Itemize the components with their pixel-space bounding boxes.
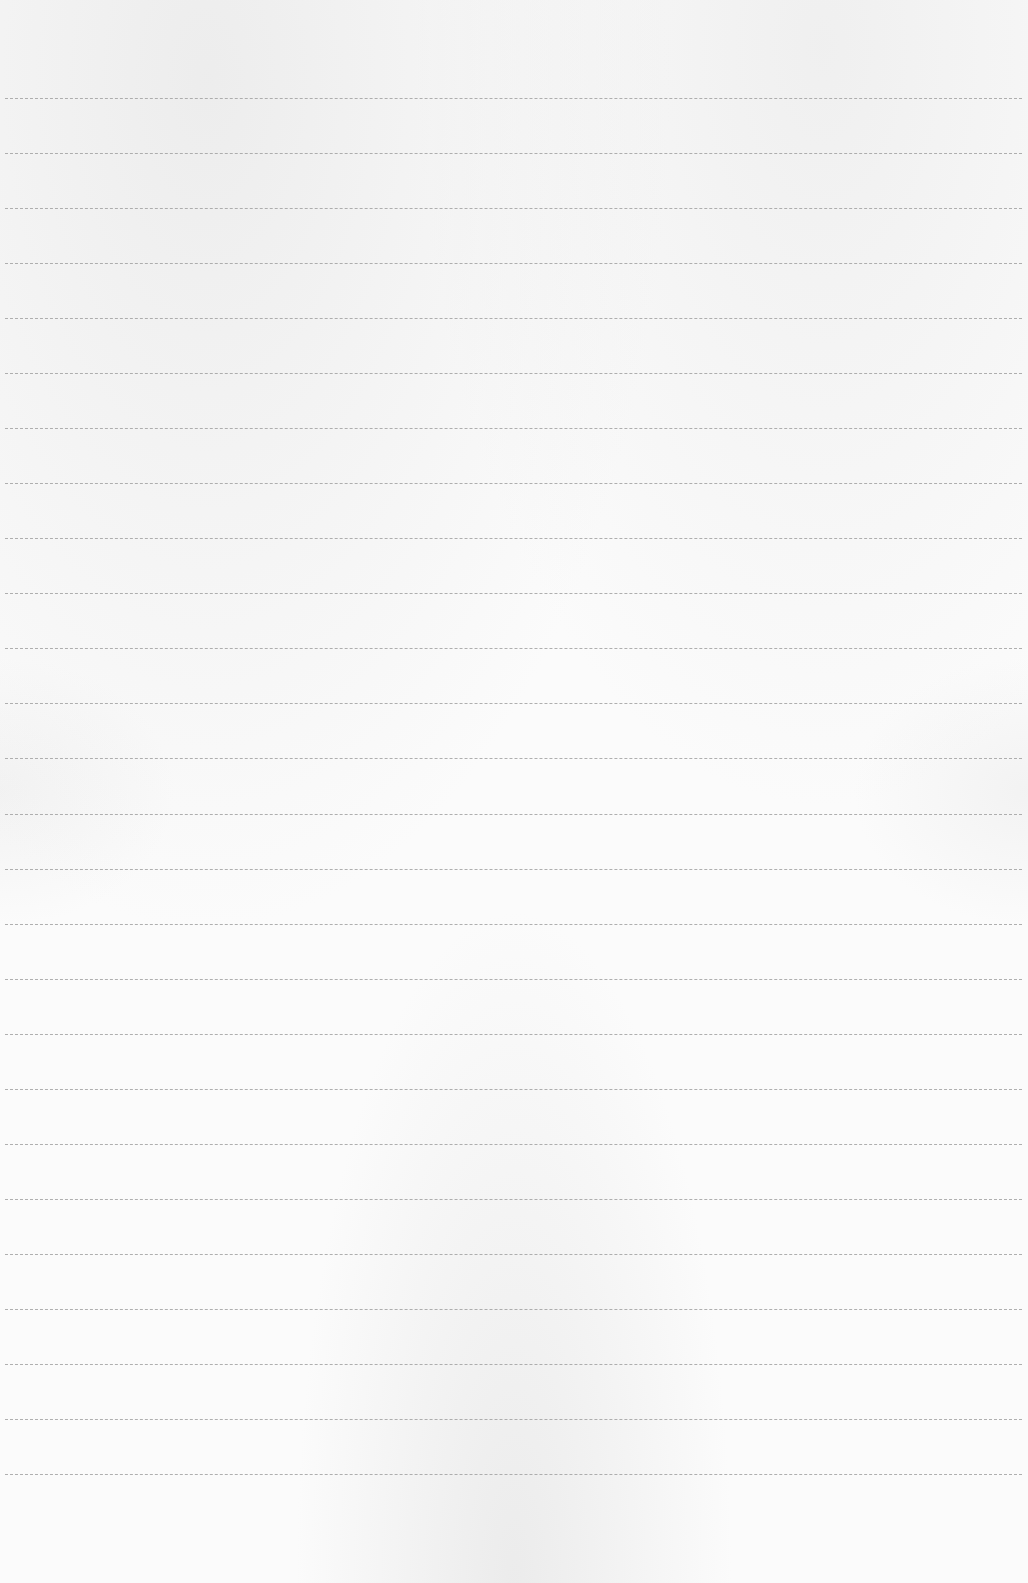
ruled-line (5, 208, 1022, 209)
ruled-line (5, 263, 1022, 264)
ruled-line (5, 538, 1022, 539)
ruled-line (5, 1474, 1022, 1475)
ruled-line (5, 648, 1022, 649)
ruled-line (5, 814, 1022, 815)
ruled-line (5, 979, 1022, 980)
ruled-line (5, 153, 1022, 154)
ruled-line (5, 373, 1022, 374)
ruled-line (5, 1254, 1022, 1255)
ruled-line (5, 318, 1022, 319)
ruled-line (5, 1364, 1022, 1365)
ruled-line (5, 1089, 1022, 1090)
ruled-line (5, 1309, 1022, 1310)
ruled-line (5, 483, 1022, 484)
ruled-line (5, 1144, 1022, 1145)
lined-paper-sheet (0, 0, 1028, 1583)
ruled-line (5, 924, 1022, 925)
ruled-line (5, 593, 1022, 594)
ruled-line (5, 1199, 1022, 1200)
ruled-line (5, 1419, 1022, 1420)
ruled-line (5, 1034, 1022, 1035)
ruled-line (5, 428, 1022, 429)
ruled-line (5, 758, 1022, 759)
ruled-line (5, 703, 1022, 704)
ruled-line (5, 98, 1022, 99)
ruled-line (5, 869, 1022, 870)
